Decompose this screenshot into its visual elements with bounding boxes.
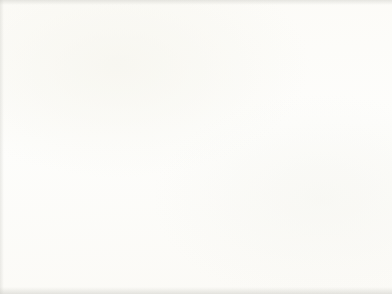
label-latin-america: Latin America and Caribbean 8.6% [2, 41, 84, 76]
label-north-america-text: North America [103, 6, 162, 16]
label-latin-america-line1: Latin America [28, 41, 84, 51]
label-oceania-text: Oceania [229, 6, 263, 16]
leader-oceania [221, 12, 223, 98]
label-europe: Europe 10.1% [2, 133, 50, 156]
leader-oceania-arrow [223, 34, 228, 41]
label-europe-text: Europe [20, 133, 50, 143]
label-oceania: Oceania 0.5% [229, 6, 299, 29]
label-latin-america-line2: and Caribbean [2, 53, 84, 65]
label-asia-percent: 60% [360, 264, 392, 276]
label-north-america-percent: 4.9% [74, 18, 162, 30]
label-latin-america-percent: 8.6% [2, 64, 84, 76]
label-africa: Africa 16.0% [297, 41, 385, 64]
leader-latin-america-bracket [86, 47, 90, 86]
pie-chart-figure: North America 4.9% Oceania 0.5% Africa 1… [0, 0, 392, 294]
label-asia-text: Asia [360, 252, 378, 262]
label-africa-text: Africa [361, 41, 385, 51]
label-africa-percent: 16.0% [297, 53, 385, 65]
label-oceania-percent: 0.5% [229, 18, 299, 30]
label-europe-percent: 10.1% [2, 145, 50, 157]
label-north-america: North America 4.9% [74, 6, 162, 29]
label-asia: Asia 60% [360, 252, 392, 275]
leader-africa-a [331, 65, 348, 79]
pie-top-face [40, 87, 376, 257]
